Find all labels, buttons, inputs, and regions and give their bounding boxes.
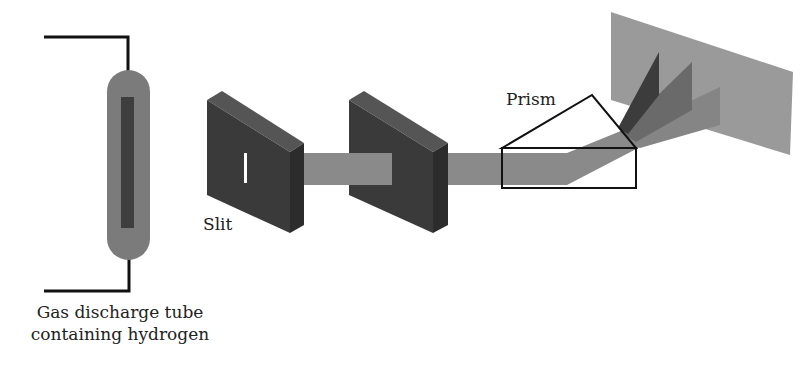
tube-label-line2: containing hydrogen [22,323,218,345]
aperture-plate-side [433,143,448,233]
tube-core [121,97,134,228]
slit-opening [244,153,247,183]
top-wire [44,37,128,72]
slit-plate-side [290,143,304,233]
prism-label: Prism [506,89,556,109]
slit-plate [207,91,304,233]
tube-label: Gas discharge tube containing hydrogen [22,301,218,345]
gas-discharge-tube [107,70,150,260]
light-beam-overlap [349,153,392,185]
slit-label: Slit [203,214,232,234]
bottom-wire [44,258,129,291]
tube-label-line1: Gas discharge tube [22,301,218,323]
light-beam-segment-2 [448,153,567,185]
